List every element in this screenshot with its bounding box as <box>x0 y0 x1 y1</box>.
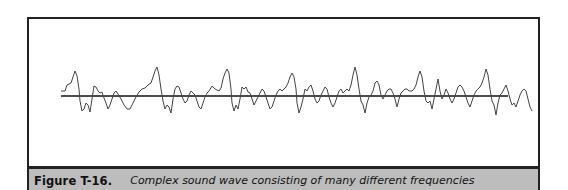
figure-label: Figure T-16. <box>34 174 112 188</box>
figure-caption-text: Complex sound wave consisting of many di… <box>130 174 474 187</box>
waveform-line <box>61 67 532 115</box>
figure-caption-bar: Figure T-16. Complex sound wave consisti… <box>29 166 538 190</box>
complex-wave-graphic <box>29 19 538 166</box>
waveform-diagram <box>29 19 538 166</box>
figure-frame: Figure T-16. Complex sound wave consisti… <box>27 17 540 190</box>
